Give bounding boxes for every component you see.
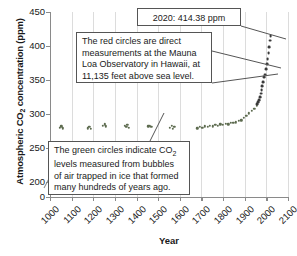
- callout-red-circles: The red circles are direct measurements …: [76, 32, 212, 83]
- y-axis-title-part-a: Atmospheric CO: [14, 112, 25, 184]
- x-tick-label-1000: 1000: [39, 204, 61, 226]
- y-tick-label-450: 450: [29, 7, 45, 17]
- y-tick-label-300: 300: [29, 109, 45, 119]
- leader-line: [212, 51, 281, 68]
- callout-2020-value: 2020: 414.38 ppm: [137, 8, 241, 26]
- y-tick-label-350: 350: [29, 75, 45, 85]
- x-tick-label-1800: 1800: [212, 204, 234, 226]
- callout-green-line-2: levels measured from bubbles: [54, 159, 184, 171]
- callout-green-circles: The green circles indicate CO2 levels me…: [48, 141, 190, 195]
- co2-chart-figure: Atmospheric CO2 concentration (ppm) Year…: [0, 0, 297, 256]
- x-tick-label-1200: 1200: [82, 204, 104, 226]
- x-tick-label-1300: 1300: [104, 204, 126, 226]
- y-tick-label-250: 250: [29, 143, 45, 153]
- x-tick-label-1100: 1100: [61, 204, 82, 225]
- callout-green-line-3: of air trapped in ice that formed: [54, 171, 184, 183]
- gridline-2100: [288, 12, 289, 197]
- x-tick-label-1700: 1700: [191, 204, 213, 226]
- x-tick-label-1600: 1600: [169, 204, 191, 226]
- y-axis-title-subscript: 2: [19, 109, 26, 113]
- x-axis-title: Year: [50, 235, 288, 246]
- callout-red-line-3: Loa Observatory in Hawaii, at: [82, 59, 206, 71]
- leader-line: [241, 26, 286, 39]
- y-axis-title: Atmospheric CO2 concentration (ppm): [14, 6, 27, 196]
- callout-red-line-4: 11,135 feet above sea level.: [82, 71, 206, 83]
- y-axis-title-part-b: concentration (ppm): [14, 18, 25, 108]
- x-tick-label-2000: 2000: [255, 204, 277, 226]
- x-tick-label-2100: 2100: [277, 204, 297, 226]
- y-tick-label-200: 200: [29, 177, 45, 187]
- callout-red-line-2: measurements at the Mauna: [82, 48, 206, 60]
- callout-green-line-4: many hundreds of years ago.: [54, 182, 184, 194]
- leader-line: [150, 113, 164, 141]
- x-tick-label-1900: 1900: [234, 204, 256, 226]
- callout-green-line-1: The green circles indicate CO2: [54, 145, 184, 159]
- y-tick-label-400: 400: [29, 41, 45, 51]
- y-tick-label-0: 0: [40, 192, 45, 202]
- x-tick-label-1500: 1500: [147, 204, 169, 226]
- callout-2020-text: 2020: 414.38 ppm: [153, 13, 226, 23]
- x-tick-label-1400: 1400: [126, 204, 148, 226]
- leader-line: [212, 74, 278, 83]
- x-tick-2100: [288, 197, 289, 201]
- callout-red-line-1: The red circles are direct: [82, 36, 206, 48]
